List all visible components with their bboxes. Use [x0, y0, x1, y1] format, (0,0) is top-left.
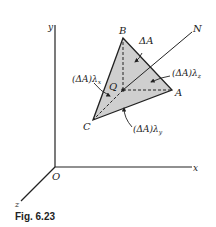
point-Q — [121, 88, 125, 92]
label-A: A — [174, 87, 182, 98]
label-z: z — [14, 200, 20, 209]
label-y: y — [47, 22, 54, 32]
label-C: C — [83, 121, 91, 132]
label-N: N — [192, 23, 203, 34]
label-O: O — [52, 171, 60, 182]
label-proj-y: (ΔA)λy — [133, 124, 163, 136]
label-proj-x: (ΔA)λx — [72, 74, 102, 85]
label-area: ΔA — [138, 35, 153, 46]
z-axis — [21, 167, 55, 201]
label-B: B — [118, 25, 126, 36]
label-x: x — [193, 163, 198, 173]
label-proj-z: (ΔA)λz — [172, 68, 202, 79]
label-Q: Q — [109, 81, 117, 92]
arrow-proj-y — [124, 108, 132, 127]
figure-6-23: y x z O B A C Q N ΔA (ΔA)λx (ΔA)λz (ΔA)λ… — [0, 0, 216, 227]
figure-caption: Fig. 6.23 — [15, 211, 55, 222]
diagram-canvas: y x z O B A C Q N ΔA (ΔA)λx (ΔA)λz (ΔA)λ… — [0, 0, 216, 227]
